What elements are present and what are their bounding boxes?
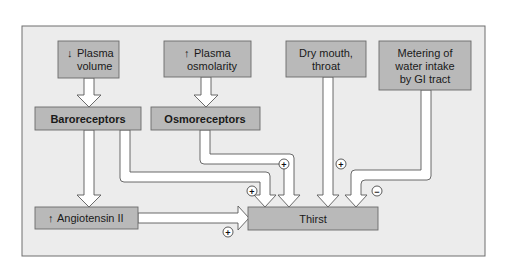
down-arrow-icon: ↓ [67,47,73,59]
baro-sign: + [249,187,254,197]
up-arrow-icon: ↑ [184,47,190,59]
angiotensin-label: Angiotensin II [57,212,124,224]
plasma-osmolarity-line2: osmolarity [187,60,238,72]
dry-sign: + [338,160,343,170]
metering-line2: water intake [394,60,454,72]
dry-mouth-line2: throat [312,60,340,72]
osmoreceptors-label: Osmoreceptors [164,113,245,125]
plasma-osmolarity-line1: Plasma [194,47,232,59]
metering-line3: by GI tract [400,73,451,85]
plasma-volume-line2: volume [77,60,112,72]
dry-mouth-line1: Dry mouth, [299,47,353,59]
angio-sign: + [225,228,230,238]
metering-line1: Metering of [397,47,453,59]
metering-sign: − [374,187,379,197]
baroreceptors-label: Baroreceptors [50,113,125,125]
plasma-volume-line1: Plasma [77,47,115,59]
up-arrow-icon: ↑ [48,212,54,224]
thirst-regulation-diagram: ↓ Plasma volume ↑ Plasma osmolarity Dry … [0,0,507,272]
thirst-label: Thirst [299,213,327,225]
osmo-sign: + [281,160,286,170]
